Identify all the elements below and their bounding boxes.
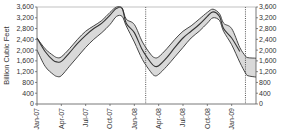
y-tick-label-right: 2,000 — [259, 47, 277, 54]
y-tick-label-left: 1,600 — [16, 57, 34, 64]
x-tick-label: Jan-07 — [33, 108, 40, 130]
y-axis-title: Billion Cubic Feet — [2, 25, 11, 84]
y-tick-label-right: 2,400 — [259, 36, 277, 43]
y-tick-label-left: 2,400 — [16, 36, 34, 43]
x-tick-label: Jul-07 — [82, 108, 89, 127]
y-tick-label-right: 400 — [259, 90, 271, 97]
x-tick-label: Jul-08 — [179, 108, 186, 127]
x-tick-label: Apr-07 — [58, 108, 66, 129]
x-tick-label: Oct-08 — [204, 108, 211, 129]
y-tick-label-left: 0 — [30, 100, 34, 107]
x-tick-label: Oct-07 — [106, 108, 113, 129]
y-tick-label-right: 2,800 — [259, 25, 277, 32]
x-tick-label: Jan-08 — [131, 108, 138, 130]
y-tick-label-right: 800 — [259, 79, 271, 86]
y-tick-label-left: 800 — [22, 79, 34, 86]
y-tick-label-right: 3,600 — [259, 3, 277, 10]
x-tick-label: Jan-09 — [228, 108, 235, 130]
y-tick-label-right: 3,200 — [259, 14, 277, 21]
y-tick-label-right: 0 — [259, 100, 263, 107]
y-tick-label-left: 3,200 — [16, 14, 34, 21]
y-tick-label-left: 2,800 — [16, 25, 34, 32]
storage-chart: 004004008008001,2001,2001,6001,6002,0002… — [0, 0, 286, 136]
y-tick-label-left: 1,200 — [16, 68, 34, 75]
y-tick-label-right: 1,200 — [259, 68, 277, 75]
y-tick-label-left: 400 — [22, 90, 34, 97]
x-tick-label: Apr-08 — [155, 108, 163, 129]
y-tick-label-left: 2,000 — [16, 47, 34, 54]
series-lines-group — [37, 7, 256, 77]
y-tick-label-left: 3,600 — [16, 3, 34, 10]
y-tick-label-right: 1,600 — [259, 57, 277, 64]
